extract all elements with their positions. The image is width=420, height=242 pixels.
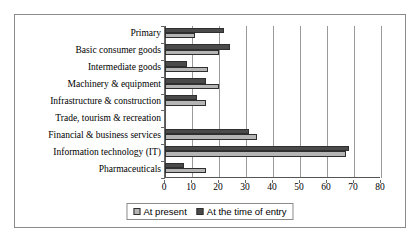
plot-area	[164, 26, 380, 178]
bar-at-present	[165, 100, 206, 105]
bar-group	[165, 127, 380, 144]
x-tick-label: 60	[321, 182, 331, 193]
chart-legend: At presentAt the time of entry	[126, 203, 293, 220]
x-tick-label: 70	[348, 182, 358, 193]
legend-swatch-icon	[133, 208, 140, 215]
legend-swatch-icon	[197, 208, 204, 215]
category-label: Trade, tourism & recreation	[55, 113, 161, 124]
chart-frame: PrimaryBasic consumer goodsIntermediate …	[14, 14, 406, 228]
bar-at-present	[165, 50, 219, 55]
category-label: Financial & business services	[48, 130, 161, 141]
bar-group	[165, 94, 380, 111]
category-tick	[161, 178, 165, 179]
legend-label: At the time of entry	[207, 206, 287, 217]
category-label: Information technology (IT)	[53, 147, 161, 158]
x-tick-label: 10	[186, 182, 196, 193]
x-tick-label: 40	[267, 182, 277, 193]
bar-group	[165, 60, 380, 77]
bar-at-present	[165, 33, 195, 38]
legend-item[interactable]: At the time of entry	[197, 206, 287, 217]
category-label: Intermediate goods	[88, 62, 161, 73]
bar-group	[165, 26, 380, 43]
category-axis: PrimaryBasic consumer goodsIntermediate …	[15, 26, 161, 178]
legend-item[interactable]: At present	[133, 206, 186, 217]
x-axis-line	[165, 177, 380, 178]
x-tick-label: 80	[375, 182, 385, 193]
bar-group	[165, 161, 380, 178]
category-label: Pharmaceuticals	[99, 164, 161, 175]
bar-at-present	[165, 84, 219, 89]
gridline-80	[381, 26, 382, 178]
x-axis-tick-labels: 01020304050607080	[164, 180, 380, 196]
x-tick-label: 30	[240, 182, 250, 193]
bar-group	[165, 77, 380, 94]
category-label: Machinery & equipment	[68, 79, 161, 90]
x-tick-label: 20	[213, 182, 223, 193]
x-tick-label: 0	[162, 182, 167, 193]
bar-at-present	[165, 151, 346, 156]
bar-group	[165, 144, 380, 161]
bar-group	[165, 43, 380, 60]
category-label: Basic consumer goods	[76, 45, 162, 56]
bar-at-present	[165, 67, 208, 72]
bar-at-present	[165, 134, 257, 139]
category-label: Infrastructure & construction	[50, 96, 161, 107]
bar-group	[165, 110, 380, 127]
x-tick-label: 50	[294, 182, 304, 193]
bar-at-present	[165, 168, 206, 173]
legend-label: At present	[143, 206, 186, 217]
category-label: Primary	[130, 28, 161, 39]
